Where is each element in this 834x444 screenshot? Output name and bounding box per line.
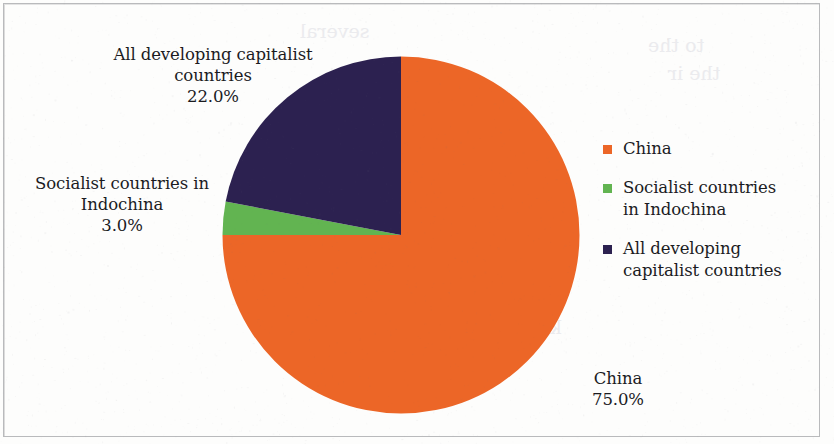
callout-china: China 75.0% <box>548 368 688 410</box>
ghost-text-i: several <box>300 20 369 42</box>
callout-green-line2: Indochina <box>6 194 238 215</box>
callout-navy-line1: All developing capitalist <box>68 44 358 65</box>
legend-item[interactable]: Socialist countries in Indochina <box>603 177 823 220</box>
callout-orange-line1: China <box>548 368 688 389</box>
legend-swatch-icon <box>603 184 612 193</box>
callout-socialist-countries-in-indochina: Socialist countries in Indochina 3.0% <box>6 173 238 236</box>
callout-green-percent: 3.0% <box>6 215 238 236</box>
ghost-text-a: to the <box>648 34 704 56</box>
callout-navy-line2: countries <box>68 65 358 86</box>
pie-slice-group <box>223 57 580 414</box>
scanned-chart-page: to the the ir of the opened recent also … <box>0 0 834 444</box>
legend-item[interactable]: China <box>603 138 823 159</box>
legend-swatch-icon <box>603 245 612 254</box>
legend-item[interactable]: All developing capitalist countries <box>603 238 823 281</box>
legend-item-label: China <box>623 138 672 159</box>
pie-chart <box>222 56 580 414</box>
callout-green-line1: Socialist countries in <box>6 173 238 194</box>
legend-item-label: All developing capitalist countries <box>623 238 782 281</box>
legend-swatch-icon <box>603 145 612 154</box>
pie-chart-svg <box>222 56 580 414</box>
callout-orange-percent: 75.0% <box>548 389 688 410</box>
chart-legend: ChinaSocialist countries in IndochinaAll… <box>603 138 823 299</box>
callout-all-developing-capitalist-countries: All developing capitalist countries 22.0… <box>68 44 358 107</box>
callout-navy-percent: 22.0% <box>68 86 358 107</box>
legend-item-label: Socialist countries in Indochina <box>623 177 776 220</box>
ghost-text-b: the ir <box>668 62 720 84</box>
